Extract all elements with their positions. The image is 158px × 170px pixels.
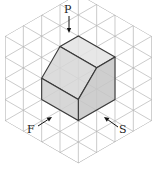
grid-line xyxy=(0,148,158,170)
grid-line xyxy=(0,127,158,170)
label-f: F xyxy=(27,123,35,136)
grid-line xyxy=(0,127,158,170)
grid-line xyxy=(0,0,158,9)
side-view-arrowhead-icon xyxy=(104,117,109,122)
label-s: S xyxy=(119,123,127,136)
grid-line xyxy=(0,169,158,170)
isometric-cube-diagram: P F S xyxy=(0,0,158,170)
cube-faces xyxy=(42,36,115,121)
front-view-arrow-icon xyxy=(38,120,48,126)
label-p: P xyxy=(64,3,72,16)
top-view-arrowhead-icon xyxy=(67,28,71,33)
grid-line xyxy=(0,148,158,170)
grid-line xyxy=(0,0,158,9)
grid-line xyxy=(0,169,158,170)
side-view-arrow-icon xyxy=(108,120,118,127)
